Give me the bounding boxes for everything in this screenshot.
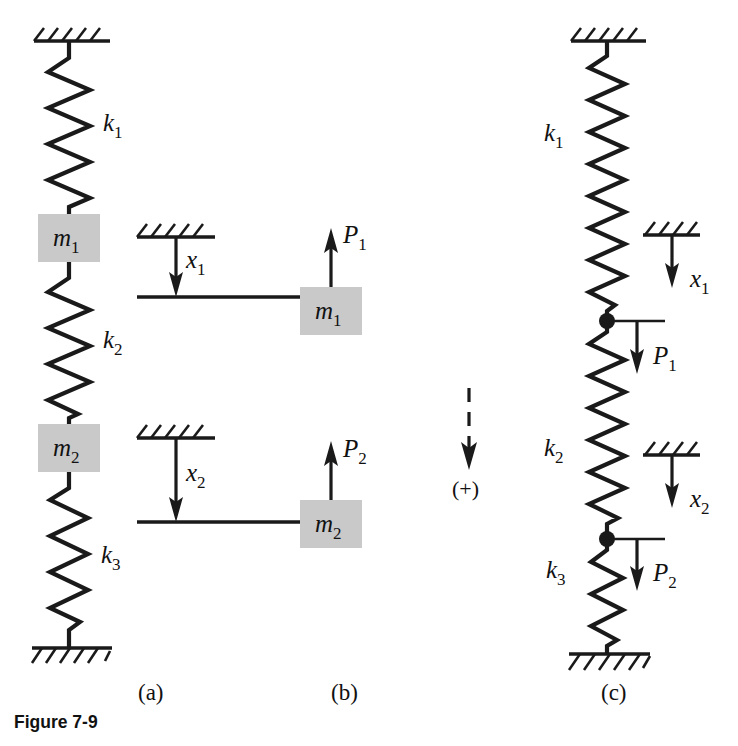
panel-c-displacement-x2: x2 xyxy=(643,442,710,518)
panel-b-label-P2: P2 xyxy=(342,435,367,468)
panel-c-label-P1: P1 xyxy=(652,342,677,375)
sign-convention-marker: (+) xyxy=(452,388,479,501)
panel-a-ceiling-support xyxy=(34,28,110,41)
panel-c-spring-k3 xyxy=(591,539,623,654)
panel-c-ceiling-support xyxy=(571,28,646,41)
figure-caption: Figure 7-9 xyxy=(14,712,98,732)
panel-a: k1 m1 k2 m2 k3 xyxy=(32,28,164,705)
figure-container: k1 m1 k2 m2 k3 xyxy=(0,0,738,746)
panel-c-label-P2: P2 xyxy=(652,559,677,592)
panel-b-label-x1: x1 xyxy=(185,246,206,279)
panel-a-mass-m2: m2 xyxy=(38,424,100,472)
panel-c-x2-hatch-icon xyxy=(645,442,697,455)
x2-datum-hatch-icon xyxy=(137,425,203,438)
panel-b: x1 m1 P1 x2 xyxy=(137,221,367,705)
panel-b-caption: (b) xyxy=(331,680,358,705)
panel-b-label-P1: P1 xyxy=(342,221,367,254)
panel-c-ceiling-hatch-icon xyxy=(571,28,637,41)
ceiling-hatch-icon xyxy=(34,28,100,41)
figure-7-9-svg: k1 m1 k2 m2 k3 xyxy=(0,0,738,746)
panel-c-label-x2: x2 xyxy=(689,485,710,518)
panel-c-x1-hatch-icon xyxy=(645,222,697,235)
panel-c-label-k2: k2 xyxy=(544,434,564,467)
panel-a-label-k2: k2 xyxy=(103,326,123,359)
panel-a-ground-support xyxy=(32,648,112,663)
panel-a-caption: (a) xyxy=(138,680,164,705)
panel-b-displacement-x2: x2 xyxy=(137,425,300,522)
panel-c-caption: (c) xyxy=(601,680,627,705)
panel-b-displacement-x1: x1 xyxy=(137,224,300,297)
ground-hatch-icon xyxy=(32,648,110,663)
panel-a-spring-k2 xyxy=(48,262,90,424)
panel-a-label-k3: k3 xyxy=(101,541,121,574)
panel-a-mass-m1: m1 xyxy=(38,214,100,262)
panel-c-displacement-x1: x1 xyxy=(643,222,710,298)
panel-a-label-k1: k1 xyxy=(103,109,123,142)
panel-c-label-k1: k1 xyxy=(544,119,564,152)
panel-c-label-x1: x1 xyxy=(689,265,710,298)
panel-b-body-m2: m2 P2 xyxy=(300,435,367,548)
panel-b-body-m1: m1 P1 xyxy=(300,221,367,335)
panel-c-ground-support xyxy=(569,654,650,670)
panel-c-spring-k1 xyxy=(589,41,625,322)
panel-a-spring-k1 xyxy=(48,41,90,215)
panel-c-label-k3: k3 xyxy=(546,556,566,589)
panel-c-ground-hatch-icon xyxy=(569,654,650,670)
panel-b-label-x2: x2 xyxy=(185,459,206,492)
panel-a-spring-k3 xyxy=(50,472,88,648)
panel-c-spring-k2 xyxy=(589,322,625,535)
x1-datum-hatch-icon xyxy=(137,224,203,237)
panel-c: k1 x1 P1 k2 xyxy=(544,28,710,705)
sign-convention-label: (+) xyxy=(452,476,479,501)
